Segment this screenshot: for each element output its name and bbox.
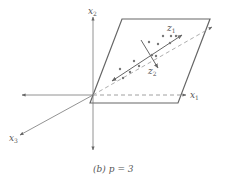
x3-label: x3	[9, 133, 18, 144]
pca-diagram: x2 x1 x3 z1 z2 (b)p = 3	[0, 0, 227, 181]
z2-axis	[141, 40, 158, 68]
z1-label: z1	[166, 23, 176, 34]
z2-label: z2	[147, 66, 157, 77]
x3-axis	[20, 95, 93, 135]
z1-axis	[112, 35, 182, 81]
caption: (b)p = 3	[93, 164, 134, 174]
diagram-canvas: x2 x1 x3 z1 z2 (b)p = 3	[0, 0, 227, 181]
x1-label: x1	[190, 90, 199, 101]
x2-label: x2	[88, 6, 97, 17]
